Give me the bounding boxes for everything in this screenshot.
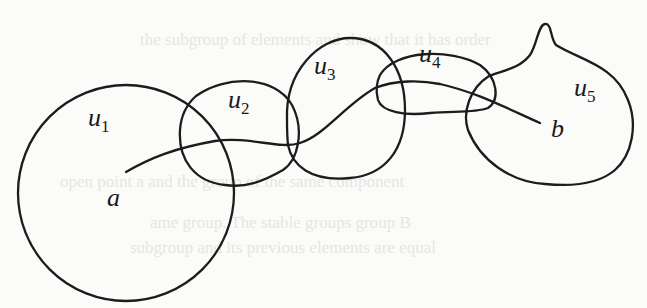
label-u4: u4	[419, 39, 441, 72]
point-a-label: a	[107, 183, 120, 212]
label-u1: u1	[88, 103, 110, 136]
point-b-label: b	[551, 114, 564, 143]
path-a-to-b	[126, 81, 540, 172]
set-u1-boundary	[18, 85, 234, 301]
label-u3: u3	[314, 51, 336, 84]
label-u5: u5	[574, 73, 596, 106]
label-u2: u2	[228, 85, 250, 118]
open-cover-diagram: u1 u2 u3 u4 u5 a b	[0, 0, 647, 308]
